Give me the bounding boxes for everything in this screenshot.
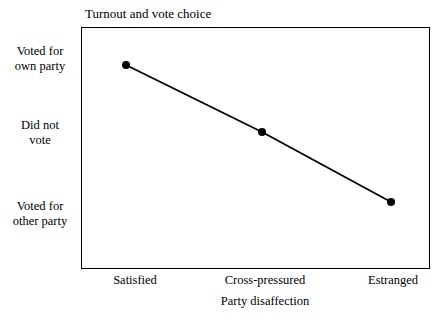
y-axis-tick-label-0: Voted for own party — [2, 44, 78, 74]
x-axis-tick-label-estranged: Estranged — [368, 273, 418, 288]
x-axis-tick-label-cross-pressured: Cross-pressured — [225, 273, 306, 288]
y-axis-tick-label-0-line-1: own party — [2, 59, 78, 74]
chart-figure: Turnout and vote choice Voted for own pa… — [0, 0, 445, 323]
y-axis-tick-label-2-line-1: other party — [2, 214, 78, 229]
x-axis-title: Party disaffection — [221, 294, 309, 309]
y-axis-tick-label-2-line-0: Voted for — [2, 199, 78, 214]
chart-title: Turnout and vote choice — [85, 6, 211, 22]
y-axis-tick-label-1-line-0: Did not — [2, 118, 78, 133]
y-axis-tick-label-1-line-1: vote — [2, 133, 78, 148]
y-axis-tick-label-0-line-0: Voted for — [2, 44, 78, 59]
plot-area-frame — [81, 27, 430, 269]
x-axis-tick-label-satisfied: Satisfied — [113, 273, 157, 288]
y-axis-tick-label-1: Did not vote — [2, 118, 78, 148]
y-axis-tick-label-2: Voted for other party — [2, 199, 78, 229]
